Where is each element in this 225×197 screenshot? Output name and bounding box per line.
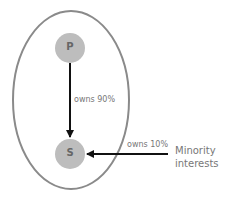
minority-interests-label: Minority interests [175, 144, 219, 170]
edge-label-owns-90: owns 90% [74, 95, 115, 104]
node-p-label: P [55, 41, 85, 52]
node-s-label: S [55, 147, 85, 158]
minority-label-line1: Minority [175, 144, 219, 157]
minority-label-line2: interests [175, 157, 219, 170]
edge-label-owns-10: owns 10% [127, 140, 168, 149]
